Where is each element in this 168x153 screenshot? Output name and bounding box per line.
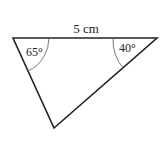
angle-label-top-right: 40° bbox=[119, 41, 136, 55]
side-length-label: 5 cm bbox=[73, 21, 99, 36]
angle-label-top-left: 65° bbox=[26, 45, 43, 59]
triangle-diagram: 5 cm 65° 40° bbox=[0, 0, 168, 153]
